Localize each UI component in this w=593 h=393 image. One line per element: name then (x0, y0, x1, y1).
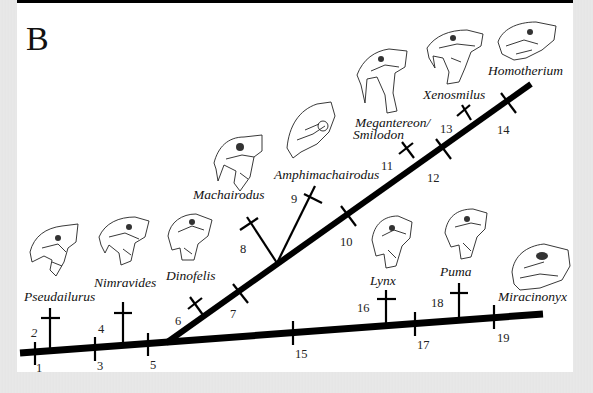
label-pseudailurus: Pseudailurus (23, 289, 95, 304)
node-12: 12 (427, 171, 440, 185)
node-5: 5 (150, 358, 156, 372)
homotherium-skull-icon (498, 22, 556, 60)
node-15: 15 (295, 347, 308, 361)
puma-skull-icon (445, 209, 487, 259)
node-4: 4 (98, 322, 105, 336)
apomorphy-6-bar (188, 298, 202, 309)
xenosmilus-skull-icon (427, 30, 483, 84)
miracinonyx-skull-icon (512, 244, 570, 290)
node-11: 11 (381, 159, 393, 173)
machairodont-branch (166, 84, 531, 343)
node-6: 6 (175, 314, 181, 328)
node-19: 19 (497, 331, 510, 345)
node-13: 13 (440, 122, 453, 136)
label-nimravides: Nimravides (93, 275, 156, 290)
phylogeny-diagram: 1 2 3 4 5 6 7 8 9 10 11 12 13 14 15 16 1… (0, 0, 593, 393)
label-xenosmilus: Xenosmilus (422, 87, 485, 102)
taxon-labels: Pseudailurus Nimravides Dinofelis Machai… (23, 63, 567, 304)
label-smilodon: Smilodon (353, 127, 404, 142)
label-homotherium: Homotherium (487, 63, 563, 78)
node-8: 8 (240, 242, 246, 256)
label-lynx: Lynx (369, 273, 396, 288)
node-3: 3 (97, 359, 103, 373)
dinofelis-skull-icon (168, 214, 212, 260)
node-18: 18 (431, 296, 444, 310)
machairodus-skull-icon (214, 135, 262, 191)
node-9: 9 (291, 192, 297, 206)
megantereon-skull-icon (357, 49, 407, 113)
pseudailurus-skull-icon (30, 224, 78, 276)
node-10: 10 (340, 235, 353, 249)
label-amphimachairodus: Amphimachairodus (273, 167, 379, 182)
lynx-skull-icon (372, 216, 412, 268)
nimravides-skull-icon (99, 217, 149, 265)
label-machairodus: Machairodus (192, 187, 265, 202)
branch-machairodus (247, 217, 277, 263)
node-16: 16 (357, 301, 370, 315)
label-dinofelis: Dinofelis (165, 268, 216, 283)
node-2: 2 (31, 326, 37, 340)
label-miracinonyx: Miracinonyx (497, 289, 567, 304)
node-1: 1 (36, 361, 42, 375)
node-14: 14 (497, 123, 510, 137)
amphimachairodus-skull-icon (287, 102, 335, 158)
node-7: 7 (230, 307, 236, 321)
node-17: 17 (417, 338, 430, 352)
label-puma: Puma (439, 264, 472, 279)
